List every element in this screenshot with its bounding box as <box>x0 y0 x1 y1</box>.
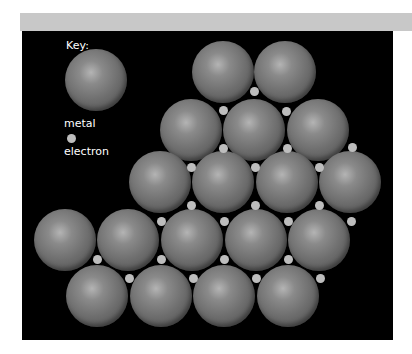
metal-atom <box>225 209 287 271</box>
key-electron-dot <box>67 134 76 143</box>
electron <box>283 144 292 153</box>
electron <box>284 255 293 264</box>
diagram-panel: Key: metal electron <box>22 31 393 340</box>
electron <box>189 274 198 283</box>
metal-atom <box>319 151 381 213</box>
electron <box>125 274 134 283</box>
metal-atom <box>66 265 128 327</box>
electron <box>348 143 357 152</box>
electron <box>284 217 293 226</box>
electron <box>282 107 291 116</box>
electron <box>251 201 260 210</box>
metal-atom <box>257 265 319 327</box>
electron <box>252 274 261 283</box>
electron <box>251 163 260 172</box>
metal-atom <box>254 41 316 103</box>
electron <box>187 163 196 172</box>
metal-atom <box>193 265 255 327</box>
electron <box>347 217 356 226</box>
header-bar <box>20 13 412 31</box>
electron <box>219 106 228 115</box>
electron <box>316 274 325 283</box>
electron <box>315 201 324 210</box>
electron <box>315 163 324 172</box>
metal-atom <box>192 151 254 213</box>
metal-atom <box>288 209 350 271</box>
electron <box>187 201 196 210</box>
electron <box>93 255 102 264</box>
metal-atom <box>34 209 96 271</box>
metal-atom <box>192 41 254 103</box>
metal-atom <box>97 209 159 271</box>
electron <box>219 144 228 153</box>
electron <box>157 217 166 226</box>
metal-atom <box>130 265 192 327</box>
key-electron-label: electron <box>64 145 109 158</box>
key-metal-atom <box>65 49 127 111</box>
metal-atom <box>256 151 318 213</box>
electron <box>220 217 229 226</box>
electron <box>250 87 259 96</box>
key-metal-label: metal <box>64 117 96 130</box>
metal-atom <box>161 209 223 271</box>
electron <box>157 255 166 264</box>
metal-atom <box>129 151 191 213</box>
electron <box>220 255 229 264</box>
